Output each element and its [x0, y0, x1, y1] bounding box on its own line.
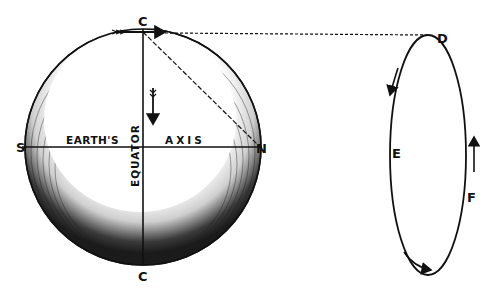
label-f: F	[467, 190, 476, 205]
earth-orbit-diagram: C C S N EARTH'S AXIS EQUATOR D E F	[0, 0, 495, 292]
label-equator: EQUATOR	[129, 124, 141, 187]
orbit-arrow-left-icon	[390, 68, 398, 95]
label-c-top: C	[138, 14, 148, 29]
label-d: D	[437, 31, 448, 46]
label-n: N	[256, 141, 267, 156]
label-c-bottom: C	[138, 269, 148, 284]
label-earths: EARTH'S	[66, 134, 119, 146]
label-e: E	[392, 146, 401, 161]
label-s: S	[16, 140, 25, 155]
label-axis: AXIS	[165, 134, 205, 146]
orbit-arrow-bottom-icon	[404, 252, 431, 270]
c-to-d-dotted-line	[165, 33, 428, 35]
orbit-ellipse	[390, 35, 466, 275]
